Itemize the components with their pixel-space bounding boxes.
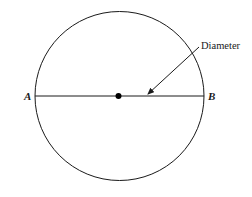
point-label-b: B xyxy=(207,90,215,102)
point-label-a: A xyxy=(23,90,31,102)
annotation-arrow xyxy=(148,47,199,94)
diameter-label: Diameter xyxy=(201,40,241,51)
circle-diagram: A B Diameter xyxy=(0,0,252,197)
center-dot xyxy=(116,93,122,99)
